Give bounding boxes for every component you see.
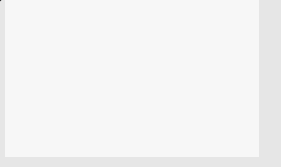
parabola-chart — [0, 0, 281, 167]
pointer-dot — [0, 0, 1, 1]
